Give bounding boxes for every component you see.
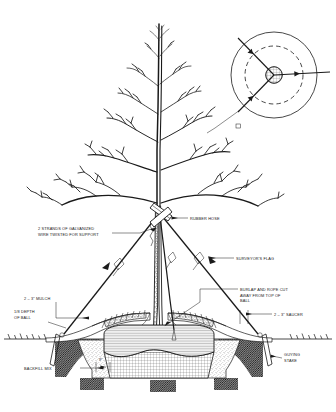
label-burlap-1: BURLAP AND ROPE CUT	[240, 287, 289, 292]
label-guying-stake-1: GUYING	[284, 352, 300, 357]
label-burlap-2: AWAY FROM TOP OF	[240, 293, 281, 298]
label-mulch: 2 – 3" MULCH	[24, 296, 50, 301]
label-burlap-3: BALL	[240, 298, 251, 303]
label-backfill-mix: BACKFILL MIX	[24, 366, 52, 371]
label-galvanized-wire-1: 2 STRANDS OF GALVANIZED	[38, 226, 94, 231]
label-depth-1: 1/8 DEPTH	[14, 309, 35, 314]
label-guying-stake-2: STAKE	[284, 358, 297, 363]
label-surveyors-flag: SURVEYOR'S FLAG	[236, 256, 274, 261]
label-saucer: 2 – 3" SAUCER	[274, 312, 303, 317]
label-galvanized-wire-2: WIRE TWISTED FOR SUPPORT	[38, 232, 99, 237]
label-rubber-hose: RUBBER HOSE	[190, 216, 220, 221]
tree-planting-diagram: RUBBER HOSE 2 STRANDS OF GALVANIZED WIRE…	[0, 0, 336, 412]
label-depth-2: OF BALL	[14, 315, 32, 320]
